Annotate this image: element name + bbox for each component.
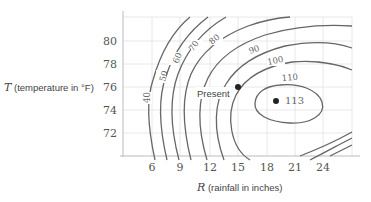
x-axis-label: R (rainfall in inches) <box>196 181 282 194</box>
svg-text:6: 6 <box>149 161 156 174</box>
y-tick-labels: 80 78 76 74 72 <box>103 35 117 140</box>
svg-text:12: 12 <box>203 161 217 174</box>
contour-lines <box>149 17 352 160</box>
x-tick-labels: 6 9 12 15 18 21 24 <box>149 161 331 174</box>
svg-text:15: 15 <box>231 161 245 174</box>
contour-label-40: 40 <box>142 92 152 103</box>
contour-label-110: 110 <box>281 72 298 83</box>
present-label: Present <box>197 88 230 99</box>
svg-text:18: 18 <box>260 161 274 174</box>
svg-text:24: 24 <box>316 161 330 174</box>
svg-text:78: 78 <box>103 58 117 71</box>
svg-text:76: 76 <box>103 81 117 94</box>
contour-40 <box>149 17 190 160</box>
contour-chart: 40 50 60 70 80 90 100 110 Present 113 80… <box>0 0 371 202</box>
svg-text:21: 21 <box>288 161 302 174</box>
y-axis-label: T (temperature in °F) <box>4 81 94 94</box>
svg-text:9: 9 <box>177 161 184 174</box>
svg-text:74: 74 <box>103 104 117 117</box>
present-point <box>235 84 241 90</box>
maximum-label: 113 <box>285 95 304 106</box>
svg-text:80: 80 <box>103 35 117 48</box>
axes <box>120 11 360 157</box>
contour-80-lower <box>330 145 352 156</box>
maximum-point <box>273 98 279 104</box>
svg-text:72: 72 <box>103 127 117 140</box>
